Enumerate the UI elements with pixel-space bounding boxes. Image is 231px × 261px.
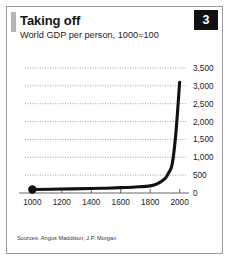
gridlines-group [25, 68, 187, 175]
x-tick-label: 1000 [23, 198, 42, 207]
chart-subtitle: World GDP per person, 1000=100 [20, 30, 159, 40]
y-tick-label: 2,000 [193, 118, 214, 127]
y-tick-label: 3,500 [193, 64, 214, 73]
title-accent-bar [11, 12, 16, 32]
chart-card: Taking off World GDP per person, 1000=10… [6, 6, 223, 254]
plot-area: 05001,0001,5002,0002,5003,0003,500 10001… [7, 49, 223, 221]
y-tick-label: 2,500 [193, 100, 214, 109]
y-tick-label: 1,500 [193, 135, 214, 144]
x-tick-label: 1800 [141, 198, 160, 207]
gdp-series-line [32, 82, 179, 189]
source-note: Sources: Angus Maddison; J.P. Morgan [17, 235, 116, 241]
y-tick-label: 1,000 [193, 153, 214, 162]
page-title: Taking off [20, 13, 80, 28]
x-tick-label: 1400 [82, 198, 101, 207]
x-axis-tick-labels: 100012001400160018002000 [23, 198, 189, 207]
series-start-marker [28, 185, 36, 193]
x-tick-label: 1600 [112, 198, 131, 207]
line-chart-svg: 05001,0001,5002,0002,5003,0003,500 10001… [7, 49, 223, 221]
x-tick-label: 1200 [53, 198, 72, 207]
y-tick-label: 3,000 [193, 82, 214, 91]
y-axis-tick-labels: 05001,0001,5002,0002,5003,0003,500 [193, 64, 214, 198]
chart-number-badge: 3 [194, 10, 218, 30]
y-tick-label: 0 [193, 189, 198, 198]
chart-header: Taking off World GDP per person, 1000=10… [7, 7, 222, 51]
x-tick-label: 2000 [171, 198, 190, 207]
y-tick-label: 500 [193, 171, 207, 180]
